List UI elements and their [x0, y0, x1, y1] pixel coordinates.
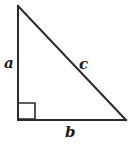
right-angle-marker-icon	[19, 103, 35, 119]
side-label-b: b	[65, 125, 76, 140]
side-label-a: a	[4, 56, 14, 71]
side-label-c: c	[79, 57, 88, 72]
right-triangle-figure: a c b	[0, 0, 135, 147]
